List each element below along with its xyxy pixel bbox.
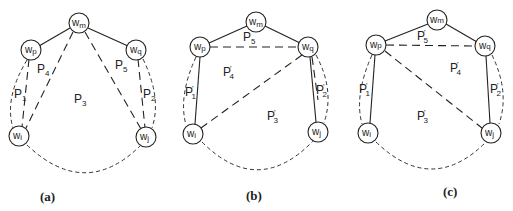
panel-a: wm wp wq wi wj P4 P5 P1 P3 P2 (a) [9, 13, 156, 204]
edge-wp-wj [385, 51, 482, 128]
node-wi: wi [358, 123, 378, 143]
panel-caption-a: (a) [40, 189, 55, 204]
edge-wp-wi [370, 55, 375, 123]
region-label-p1: P1 [14, 87, 27, 103]
panel-caption-c: (c) [443, 184, 457, 199]
edge-wp-wi [22, 59, 29, 127]
edge-wi-wj-arc [27, 145, 140, 173]
node-wm: wm [246, 12, 266, 32]
node-wq: wq [475, 36, 495, 56]
region-label-p1-prime: P'1 [185, 84, 197, 101]
region-label-p4-prime: P'4 [223, 64, 235, 81]
region-label-p3-prime: P'3 [417, 108, 429, 125]
edge-wq-wi [201, 55, 302, 128]
node-wp: wp [366, 35, 386, 55]
svg-text:wm: wm [429, 14, 444, 25]
svg-text:wq: wq [478, 40, 491, 51]
edge-wm-wq [265, 26, 300, 43]
node-wp: wp [190, 37, 210, 57]
edge-wp-wm [209, 26, 247, 43]
node-wq: wq [126, 40, 146, 60]
region-label-p3-prime: P'3 [267, 108, 279, 125]
region-label-p1-prime: P'1 [359, 81, 371, 98]
region-label-p4: P4 [37, 62, 50, 78]
node-wm: wm [69, 13, 89, 33]
region-label-p2: P2 [143, 87, 156, 103]
node-wj: wj [481, 123, 501, 143]
figure-canvas: wm wp wq wi wj P4 P5 P1 P3 P2 (a) [0, 0, 513, 211]
region-label-p5-prime: P'5 [417, 28, 429, 45]
node-wj: wj [308, 122, 328, 142]
panel-caption-b: (b) [246, 188, 262, 203]
node-wi: wi [183, 124, 203, 144]
svg-text:wp: wp [369, 39, 382, 50]
edge-wm-wq [446, 24, 477, 42]
node-wi: wi [9, 126, 29, 146]
edge-wm-wq [88, 28, 128, 46]
node-wm: wm [427, 10, 447, 30]
edge-wi-wj-arc [202, 141, 313, 170]
edge-wi-wj-arc [376, 142, 486, 169]
region-label-p3: P3 [74, 92, 87, 108]
region-label-p5: P5 [115, 58, 128, 74]
edge-wp-wq [386, 45, 475, 46]
node-wp: wp [21, 40, 41, 60]
region-label-p2-prime: P'2 [490, 81, 502, 98]
panel-b: wm wp wq wi wj P5 P'4 P'1 P'3 P'2 (b) [183, 12, 328, 203]
panel-c: wm wp wq wi wj P'5 P'4 P'1 P'3 P'2 (c) [358, 10, 503, 199]
node-wj: wj [136, 127, 156, 147]
region-label-p4-prime: P'4 [450, 60, 462, 77]
node-wq: wq [298, 37, 318, 57]
region-label-p2-prime: P'2 [316, 82, 328, 99]
region-label-p5: P5 [243, 30, 256, 46]
edge-wp-wm [39, 28, 70, 46]
edge-wp-wi [195, 57, 200, 124]
